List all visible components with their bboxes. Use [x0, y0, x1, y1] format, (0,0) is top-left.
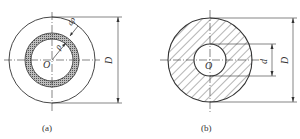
- center-label-a: O: [43, 59, 50, 70]
- dim-label-D-b: D: [279, 56, 290, 65]
- rho-label: ρ: [52, 42, 64, 52]
- dim-label-d-b: d: [258, 58, 269, 64]
- caption-a: (a): [42, 123, 52, 133]
- dim-label-D-a: D: [103, 56, 114, 65]
- center-label-b: O: [205, 60, 212, 71]
- figure-a: O ρ dρ D (a): [4, 12, 122, 133]
- caption-b: (b): [201, 123, 212, 133]
- cross-section-diagram: O ρ dρ D (a) O d D (b): [0, 0, 300, 139]
- figure-b: O d D (b): [160, 10, 297, 133]
